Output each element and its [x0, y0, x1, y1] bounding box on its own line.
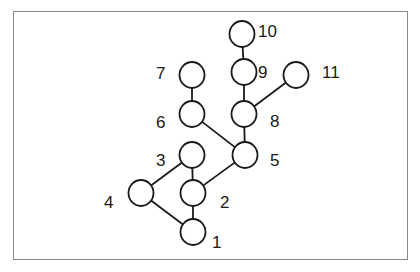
node-label: 6 — [156, 113, 165, 132]
edge-1-4 — [151, 201, 183, 225]
node-label: 10 — [258, 22, 277, 41]
node-11: 11 — [284, 62, 340, 88]
node-4: 4 — [104, 180, 154, 212]
node-circle — [232, 101, 257, 127]
edge-8-11 — [254, 83, 286, 107]
edge-5-6 — [202, 122, 235, 148]
node-9: 9 — [232, 59, 268, 85]
node-label: 2 — [220, 193, 229, 212]
node-7: 7 — [156, 62, 205, 88]
node-5: 5 — [233, 142, 280, 170]
node-circle — [180, 62, 205, 88]
node-circle — [233, 142, 258, 168]
node-circle — [180, 101, 205, 127]
node-3: 3 — [156, 142, 205, 170]
node-circle — [181, 180, 206, 206]
node-1: 1 — [181, 219, 222, 252]
edge-9-10 — [243, 46, 244, 59]
node-6: 6 — [156, 101, 205, 132]
node-circle — [232, 59, 257, 85]
node-10: 10 — [230, 21, 277, 47]
node-circle — [181, 219, 206, 245]
edge-2-5 — [203, 162, 235, 185]
node-label: 11 — [322, 63, 340, 82]
node-label: 7 — [156, 64, 165, 83]
node-label: 4 — [104, 193, 113, 212]
node-circle — [180, 142, 205, 168]
node-label: 5 — [270, 151, 279, 170]
node-label: 1 — [212, 233, 221, 252]
node-label: 9 — [258, 63, 267, 82]
node-circle — [129, 180, 154, 206]
node-label: 8 — [270, 112, 279, 131]
node-circle — [284, 62, 309, 88]
node-circle — [230, 21, 255, 47]
node-label: 3 — [156, 151, 165, 170]
tree-diagram: 1234567891011 — [0, 0, 420, 272]
